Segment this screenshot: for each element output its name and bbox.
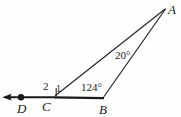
ray-cd-arrowhead — [2, 94, 11, 101]
vertex-label-b: B — [99, 103, 107, 116]
segment-ba — [104, 9, 166, 97]
vertex-label-c: C — [42, 100, 51, 113]
point-dot-d — [18, 94, 24, 100]
geometry-figure: A B C D 2 1 124° 20° — [0, 0, 181, 117]
angle-label-2: 2 — [43, 81, 49, 92]
vertex-label-a: A — [168, 3, 176, 16]
angle-label-124-degrees: 124° — [81, 82, 102, 93]
angle-label-1: 1 — [56, 84, 61, 94]
segment-ca — [56, 10, 165, 96]
geometry-diagram-svg — [0, 0, 181, 117]
vertex-label-d: D — [17, 102, 26, 115]
segment-cb — [54, 97, 104, 98]
angle-label-20-degrees: 20° — [115, 50, 130, 61]
